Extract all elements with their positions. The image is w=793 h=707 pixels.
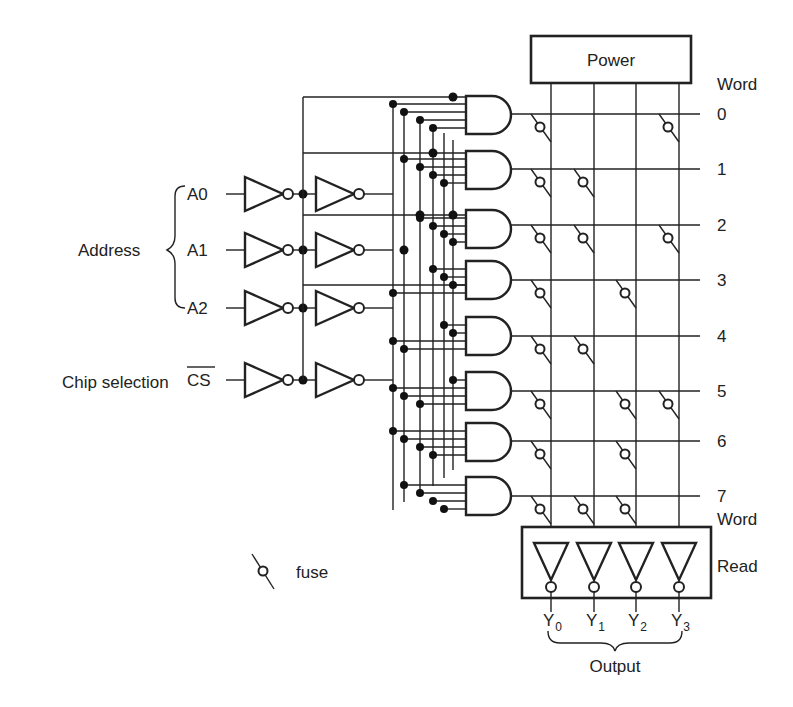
fuse-icon <box>616 391 636 419</box>
word-label-0: 0 <box>717 105 726 124</box>
word-label-4: 4 <box>717 327 726 346</box>
junction-dot <box>429 497 437 505</box>
junction-dot <box>440 273 448 281</box>
fuse-icon <box>616 280 636 308</box>
word-header-bottom: Word <box>717 510 757 529</box>
junction-dot <box>449 281 457 289</box>
junction-dot <box>416 116 424 124</box>
junction-dot <box>416 400 424 408</box>
word-header-top: Word <box>717 75 757 94</box>
read-block: Read <box>522 527 758 612</box>
junction-dot <box>429 265 437 273</box>
input-a0: A0 <box>187 177 393 211</box>
fuse-icon <box>531 391 551 419</box>
output-label-1: Y1 <box>586 611 605 634</box>
junction-dot <box>416 489 424 497</box>
junction-dot <box>429 222 437 230</box>
output-brace <box>548 631 682 651</box>
prom-diagram: Power Word 01234567 Word Read Y0Y1Y2Y3 O… <box>0 0 793 707</box>
and-gate-3 <box>466 261 511 299</box>
output-label-3: Y3 <box>671 611 690 634</box>
fuse-icon <box>659 114 679 142</box>
fuse-icon <box>531 280 551 308</box>
junction-dot <box>400 246 409 255</box>
junction-dot <box>400 345 408 353</box>
inverter-icon <box>245 177 283 211</box>
junction-dot <box>449 211 458 220</box>
input-a2: A2 <box>187 291 393 325</box>
junction-dot <box>416 443 424 451</box>
output-label-2: Y2 <box>628 611 647 634</box>
output-labels: Y0Y1Y2Y3 <box>543 611 690 634</box>
junction-dot <box>389 384 397 392</box>
inverter-icon <box>316 177 354 211</box>
and-gate-1 <box>466 151 511 189</box>
word-label-2: 2 <box>717 216 726 235</box>
address-brace <box>167 186 185 308</box>
chip-selection-label: Chip selection <box>62 373 169 392</box>
and-gates <box>466 96 511 515</box>
inverter-icon <box>245 363 283 397</box>
fuse-array <box>531 114 679 524</box>
fuse-icon <box>531 336 551 364</box>
power-label: Power <box>587 51 636 70</box>
fuse-icon <box>531 441 551 469</box>
word-label-6: 6 <box>717 432 726 451</box>
fuse-legend-label: fuse <box>296 563 328 582</box>
junction-dot <box>400 108 408 116</box>
word-lines <box>511 114 700 496</box>
junction-dot <box>389 289 397 297</box>
and-gate-4 <box>466 317 511 355</box>
junction-dot <box>440 179 448 187</box>
inverter-icon <box>245 291 283 325</box>
input-a1: A1 <box>187 233 393 267</box>
power-block: Power <box>531 36 691 83</box>
junction-dot <box>449 376 457 384</box>
fuse-icon <box>574 225 594 253</box>
junction-dot <box>429 149 438 158</box>
inverter-icon <box>316 233 354 267</box>
fuse-legend: fuse <box>252 554 328 589</box>
junction-dot <box>429 124 437 132</box>
bit-columns <box>551 83 679 543</box>
junction-dot <box>400 155 408 163</box>
fuse-icon <box>531 225 551 253</box>
address-label: Address <box>78 241 140 260</box>
junction-dot <box>416 211 425 220</box>
and-gate-5 <box>466 372 511 410</box>
fuse-icon <box>531 114 551 142</box>
junction-dot <box>449 329 457 337</box>
junction-dot <box>429 451 437 459</box>
and-gate-7 <box>466 477 511 515</box>
junction-dot <box>400 481 408 489</box>
word-label-7: 7 <box>717 487 726 506</box>
junction-dot <box>389 427 397 435</box>
input-label-a2: A2 <box>187 299 208 318</box>
inverter-icon <box>245 233 283 267</box>
output-label: Output <box>589 657 640 676</box>
and-gate-6 <box>466 423 511 461</box>
inverter-icon <box>316 291 354 325</box>
output-label-0: Y0 <box>543 611 562 634</box>
and-gate-0 <box>466 96 511 134</box>
input-label-a0: A0 <box>187 185 208 204</box>
word-label-1: 1 <box>717 160 726 179</box>
read-label: Read <box>717 557 758 576</box>
junction-dot <box>389 337 397 345</box>
junction-dot <box>389 100 397 108</box>
fuse-icon <box>659 225 679 253</box>
junction-dot <box>440 321 448 329</box>
fuse-icon <box>574 169 594 197</box>
fuse-icon <box>531 169 551 197</box>
junction-dot <box>449 238 457 246</box>
junction-dot <box>400 392 408 400</box>
fuse-icon <box>659 391 679 419</box>
input-section: A0A1A2CS <box>187 177 393 397</box>
fuse-icon <box>616 441 636 469</box>
junction-dot <box>449 93 458 102</box>
junction-dot <box>440 230 448 238</box>
junction-dot <box>400 435 408 443</box>
fuse-icon <box>574 336 594 364</box>
word-label-3: 3 <box>717 271 726 290</box>
and-gate-2 <box>466 210 511 248</box>
